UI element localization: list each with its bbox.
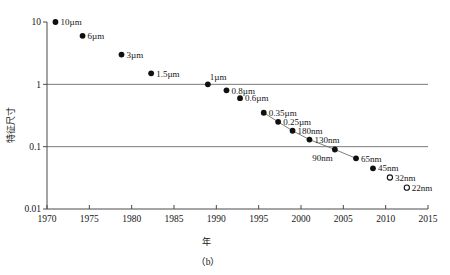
- data-point-label-10µm: 10µm: [60, 17, 81, 27]
- data-point-labels-group: 10µm6µm3µm1.5µm1µm0.8µm0.6µm0.35µm0.25µm…: [60, 17, 432, 193]
- y-axis-label: 特征尺寸: [5, 107, 16, 143]
- data-point-6µm[interactable]: [80, 33, 86, 39]
- axes-group: [47, 22, 428, 209]
- figure-caption: （b）: [196, 256, 221, 267]
- x-tick-label-1975: 1975: [80, 214, 99, 224]
- data-point-label-90nm: 90nm: [312, 153, 333, 163]
- connector-90nm-to-65nm: [335, 150, 356, 159]
- data-point-label-1µm: 1µm: [210, 72, 227, 82]
- data-points-group: [53, 19, 410, 190]
- data-point-0.6µm[interactable]: [237, 95, 243, 101]
- data-point-22nm[interactable]: [404, 185, 409, 190]
- x-tick-label-2015: 2015: [419, 214, 438, 224]
- x-axis-label: 年: [202, 236, 211, 247]
- data-point-label-3µm: 3µm: [127, 50, 144, 60]
- data-point-45nm[interactable]: [370, 165, 376, 171]
- figure-container: 0.010.1110197019751980198519901995200020…: [0, 0, 450, 275]
- y-tick-label-0.01: 0.01: [24, 204, 41, 214]
- x-tick-label-1990: 1990: [207, 214, 226, 224]
- x-tick-label-1970: 1970: [38, 214, 57, 224]
- data-point-label-22nm: 22nm: [412, 183, 433, 193]
- data-point-10µm[interactable]: [53, 19, 59, 25]
- data-point-label-65nm: 65nm: [361, 154, 382, 164]
- x-tick-label-1980: 1980: [122, 214, 141, 224]
- data-point-label-130nm: 130nm: [314, 135, 339, 145]
- x-tick-label-2010: 2010: [376, 214, 395, 224]
- data-point-180nm[interactable]: [290, 128, 296, 134]
- data-point-0.25µm[interactable]: [275, 119, 281, 125]
- tick-labels-group: 0.010.1110197019751980198519901995200020…: [24, 17, 437, 224]
- data-point-label-0.6µm: 0.6µm: [245, 93, 268, 103]
- data-point-label-6µm: 6µm: [88, 31, 105, 41]
- data-point-130nm[interactable]: [307, 137, 313, 143]
- tick-marks-group: [43, 22, 428, 209]
- data-point-label-1.5µm: 1.5µm: [156, 69, 179, 79]
- data-point-32nm[interactable]: [387, 175, 392, 180]
- x-tick-label-2005: 2005: [334, 214, 353, 224]
- y-tick-label-1: 1: [36, 80, 41, 90]
- y-tick-label-10: 10: [32, 17, 42, 27]
- data-point-0.8µm[interactable]: [224, 87, 230, 93]
- x-tick-label-2000: 2000: [292, 214, 311, 224]
- x-tick-label-1985: 1985: [165, 214, 184, 224]
- characteristic-size-scatter-chart: 0.010.1110197019751980198519901995200020…: [0, 0, 450, 275]
- data-point-label-32nm: 32nm: [395, 173, 416, 183]
- data-point-65nm[interactable]: [353, 155, 359, 161]
- y-tick-label-0.1: 0.1: [29, 142, 41, 152]
- x-tick-label-1995: 1995: [249, 214, 268, 224]
- data-point-0.35µm[interactable]: [261, 110, 267, 116]
- data-point-3µm[interactable]: [119, 52, 125, 58]
- data-point-1.5µm[interactable]: [148, 70, 154, 76]
